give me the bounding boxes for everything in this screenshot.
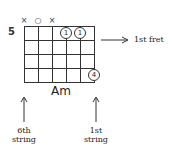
fret-line-4 [24,82,95,83]
arrow-up-icon [19,96,29,122]
first-string-label-line1: 1st [81,126,111,135]
fret-line-1 [24,40,95,41]
fret-line-0 [24,26,95,27]
arrow-up-icon [91,96,101,122]
muted-string-6-icon: × [19,17,29,25]
first-string-label: 1st string [81,126,111,144]
chord-name: Am [51,84,71,98]
muted-string-4-icon: × [47,17,57,25]
arrow-right-icon [101,35,131,45]
first-fret-label: 1st fret [134,35,164,44]
sixth-string-label: 6th string [9,126,39,144]
sixth-string-label-line2: string [9,135,39,144]
fret-line-3 [24,68,95,69]
open-string-5-icon: ○ [33,17,43,25]
finger-dot-string-1: 4 [88,69,100,81]
finger-dot-string-2: 1 [74,27,86,39]
start-fret-number: 5 [8,26,15,37]
first-string-label-line2: string [81,135,111,144]
finger-dot-string-3: 1 [60,27,72,39]
fret-line-2 [24,54,95,55]
sixth-string-label-line1: 6th [9,126,39,135]
